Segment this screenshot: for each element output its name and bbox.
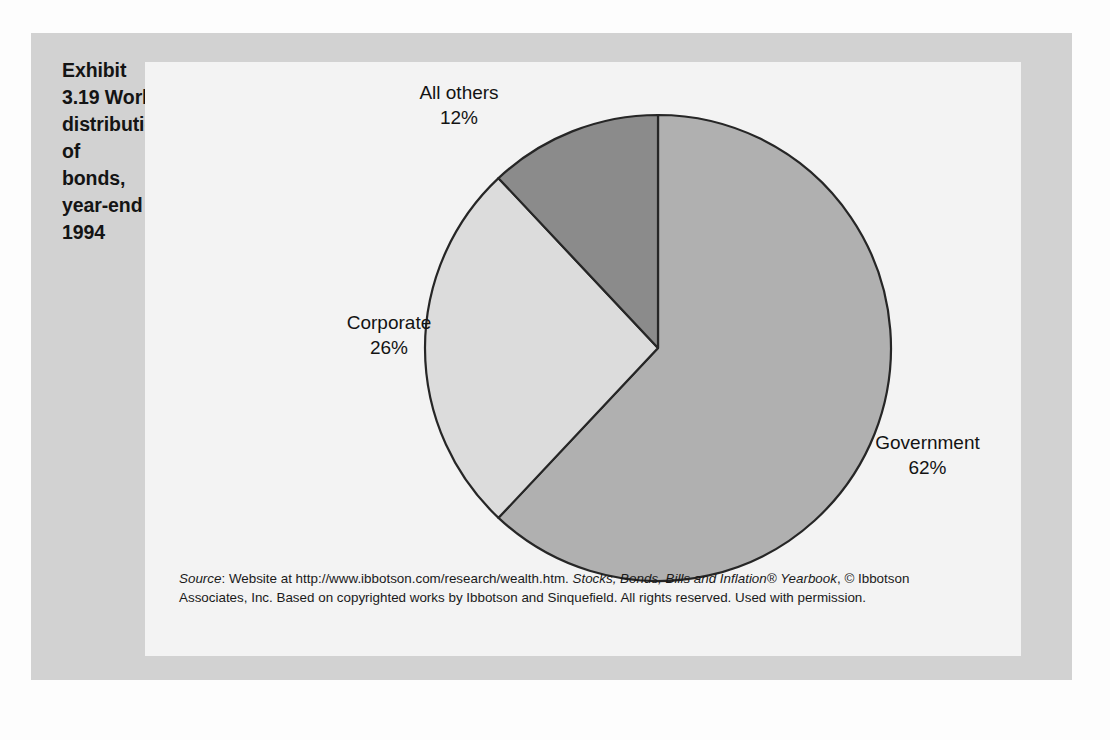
source-note-line2-italic: Yearbook: [780, 571, 837, 586]
exhibit-panel: Exhibit 3.19 World distribution of bonds…: [31, 33, 1072, 680]
pie-label-corporate-name: Corporate: [324, 310, 454, 335]
pie-chart: [145, 62, 1021, 656]
chart-card: All others 12% Corporate 26% Government …: [145, 62, 1021, 656]
source-note-line1-italic: Stocks, Bonds, Bills and Inflation®: [572, 571, 776, 586]
pie-label-all-others: All others 12%: [394, 80, 524, 130]
source-note: Source: Website at http://www.ibbotson.c…: [179, 570, 969, 607]
pie-label-all-others-name: All others: [394, 80, 524, 105]
source-note-line1-text: : Website at http://www.ibbotson.com/res…: [221, 571, 572, 586]
pie-label-government: Government 62%: [845, 430, 1010, 480]
pie-label-government-pct: 62%: [845, 455, 1010, 480]
pie-label-government-name: Government: [845, 430, 1010, 455]
pie-label-corporate: Corporate 26%: [324, 310, 454, 360]
source-note-line3: All rights reserved. Used with permissio…: [620, 590, 866, 605]
source-note-lead: Source: [179, 571, 221, 586]
pie-label-all-others-pct: 12%: [394, 105, 524, 130]
pie-label-corporate-pct: 26%: [324, 335, 454, 360]
